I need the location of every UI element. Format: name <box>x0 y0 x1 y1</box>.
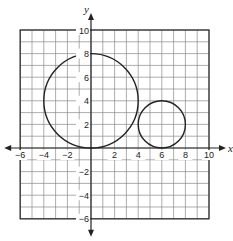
y-axis-down-arrow-icon <box>88 230 94 237</box>
y-tick-label: 10 <box>79 26 89 36</box>
axes <box>4 13 226 237</box>
y-tick-label: −4 <box>79 191 89 201</box>
y-tick-label: −6 <box>79 214 89 224</box>
y-tick-label: −2 <box>79 167 89 177</box>
grid-lines <box>20 30 209 219</box>
y-tick-label: 8 <box>84 49 89 59</box>
x-tick-label: −4 <box>39 150 49 160</box>
x-tick-label: 2 <box>112 150 117 160</box>
x-tick-label: 4 <box>136 150 141 160</box>
x-axis-label: x <box>227 142 233 154</box>
coordinate-plane: −6−4−2246810108642−2−4−6 x y <box>0 0 233 241</box>
x-tick-label: −6 <box>15 150 25 160</box>
x-tick-label: 6 <box>159 150 164 160</box>
y-tick-label: 6 <box>84 73 89 83</box>
x-tick-label: 8 <box>183 150 188 160</box>
x-tick-label: −2 <box>62 150 72 160</box>
y-tick-label: 4 <box>84 96 89 106</box>
y-tick-label: 2 <box>84 120 89 130</box>
y-axis-label: y <box>83 3 89 15</box>
x-axis-left-arrow-icon <box>4 145 11 151</box>
x-axis-right-arrow-icon <box>219 145 226 151</box>
x-tick-label: 10 <box>204 150 214 160</box>
